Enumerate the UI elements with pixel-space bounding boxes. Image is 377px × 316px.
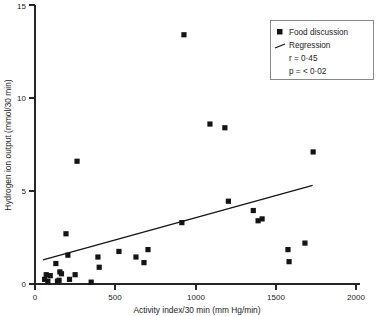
data-point	[97, 265, 102, 270]
data-point	[302, 240, 307, 245]
regression-line	[43, 185, 313, 259]
data-point	[226, 199, 231, 204]
legend-label-regression: Regression	[289, 41, 331, 50]
data-point	[145, 247, 150, 252]
y-tick-label-10: 10	[17, 94, 26, 103]
chart-legend: Food discussion Regression r = 0·45 p = …	[271, 21, 374, 80]
data-point	[67, 277, 72, 282]
data-point	[116, 249, 121, 254]
y-axis-ticks: 0 5 10 15	[17, 2, 35, 289]
chart-canvas: 0 5 10 15 0 500 1000 1500 2000 Activity …	[0, 0, 377, 316]
data-point	[179, 220, 184, 225]
x-axis-ticks: 0 500 1000 1500 2000	[33, 284, 366, 302]
data-point	[45, 279, 50, 284]
data-point	[73, 272, 78, 277]
x-tick-label-2000: 2000	[347, 293, 365, 302]
y-tick-label-15: 15	[17, 2, 26, 11]
data-point	[181, 32, 186, 37]
data-point	[48, 273, 53, 278]
data-point	[222, 125, 227, 130]
x-tick-label-1000: 1000	[187, 293, 205, 302]
data-point	[53, 261, 58, 266]
y-tick-label-0: 0	[22, 280, 27, 289]
data-point	[65, 253, 70, 258]
legend-square-marker-icon	[277, 29, 283, 35]
x-tick-label-500: 500	[108, 293, 122, 302]
y-axis-title: Hydrogen ion output (mmol/30 min)	[3, 79, 13, 210]
data-point	[285, 247, 290, 252]
legend-stat-p: p = < 0·02	[289, 67, 327, 76]
data-point	[74, 159, 79, 164]
x-tick-label-1500: 1500	[267, 293, 285, 302]
scatter-plot-figure: 0 5 10 15 0 500 1000 1500 2000 Activity …	[0, 0, 377, 316]
data-point	[56, 278, 61, 283]
data-point	[207, 121, 212, 126]
legend-stat-r: r = 0·45	[289, 54, 318, 63]
data-point	[59, 271, 64, 276]
data-point	[251, 208, 256, 213]
x-tick-label-0: 0	[33, 293, 38, 302]
legend-label-food-discussion: Food discussion	[289, 28, 349, 37]
data-point	[311, 149, 316, 154]
data-point	[63, 231, 68, 236]
data-point	[286, 259, 291, 264]
y-tick-label-5: 5	[22, 187, 27, 196]
data-point	[95, 254, 100, 259]
data-point	[260, 216, 265, 221]
data-point	[89, 280, 94, 285]
data-point	[141, 260, 146, 265]
data-point	[133, 254, 138, 259]
x-axis-title: Activity index/30 min (mm Hg/min)	[133, 305, 260, 315]
